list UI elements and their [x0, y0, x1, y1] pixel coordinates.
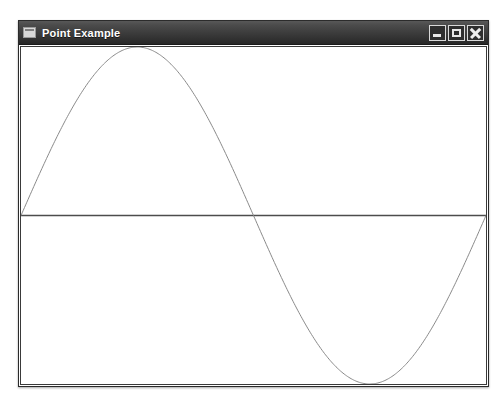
- window-controls: [429, 25, 486, 41]
- sine-plot: [21, 47, 486, 384]
- title-bar[interactable]: Point Example: [19, 21, 488, 45]
- application-window: Point Example: [18, 20, 489, 387]
- window-title: Point Example: [42, 27, 120, 39]
- close-button[interactable]: [467, 25, 484, 41]
- minimize-button[interactable]: [429, 25, 446, 41]
- plot-canvas[interactable]: [20, 46, 487, 385]
- maximize-button[interactable]: [448, 25, 465, 41]
- window-icon: [23, 27, 36, 38]
